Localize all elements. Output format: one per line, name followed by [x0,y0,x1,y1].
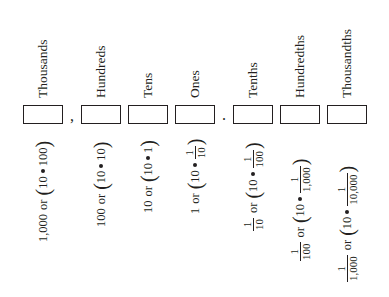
fraction: 11,000 [289,166,312,193]
multiply-dot-icon [99,164,103,168]
expr-ones: 1or (10 110) [182,138,208,214]
multiply-dot-icon [251,172,255,176]
multiply-dot-icon [146,156,150,160]
expr-thousands: 1,000or (10100) [30,141,56,242]
fraction: 11,000 [336,255,359,282]
multiply-dot-icon [345,210,349,214]
digit-box-hundredths[interactable] [280,105,320,124]
label-tenths: Tenths [245,62,261,98]
multiply-dot-icon [41,169,45,173]
expr-hundredths: 1100or (10 11,000) [287,158,313,262]
digit-box-tenths[interactable] [233,105,273,124]
label-thousandths: Thousandths [339,29,355,98]
label-hundreds: Hundreds [93,46,109,99]
fraction: 110 [242,218,265,231]
fraction: 110,000 [336,173,359,205]
fraction: 1100 [289,243,312,262]
label-thousands: Thousands [35,40,51,99]
digit-box-thousands[interactable] [23,105,63,124]
digit-box-thousandths[interactable] [327,105,367,124]
fraction: 1100 [242,150,265,169]
decimal-point: . [222,107,226,123]
label-tens: Tens [140,73,156,98]
comma-separator: , [70,108,74,124]
label-ones: Ones [187,70,203,98]
multiply-dot-icon [193,163,197,167]
digit-box-ones[interactable] [175,105,215,124]
fraction: 110 [184,146,207,159]
label-hundredths: Hundredths [292,35,308,98]
digit-box-tens[interactable] [128,105,168,124]
expr-thousandths: 11,000or (10 110,000) [334,166,360,283]
expr-tens: 10or (101) [135,140,161,213]
digit-box-hundreds[interactable] [81,105,121,124]
expr-tenths: 110or (10 1100) [240,142,266,232]
multiply-dot-icon [298,197,302,201]
expr-hundreds: 100or (1010) [88,141,114,227]
